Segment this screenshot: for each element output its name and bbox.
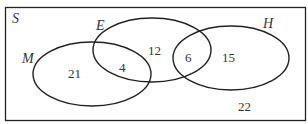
label-m: M — [21, 51, 35, 66]
region-outside: 22 — [238, 99, 251, 114]
region-e-only: 12 — [148, 43, 161, 58]
region-m-only: 21 — [68, 66, 81, 81]
label-e: E — [95, 18, 105, 33]
label-h: H — [262, 16, 274, 31]
region-m-and-e: 4 — [119, 60, 126, 75]
universal-set-box — [6, 8, 306, 121]
region-h-only: 15 — [222, 50, 235, 65]
label-s: S — [12, 11, 19, 26]
venn-diagram: S E M H 21 4 12 6 15 22 — [0, 0, 308, 124]
region-e-and-h: 6 — [185, 50, 192, 65]
set-m-ellipse — [33, 42, 151, 106]
